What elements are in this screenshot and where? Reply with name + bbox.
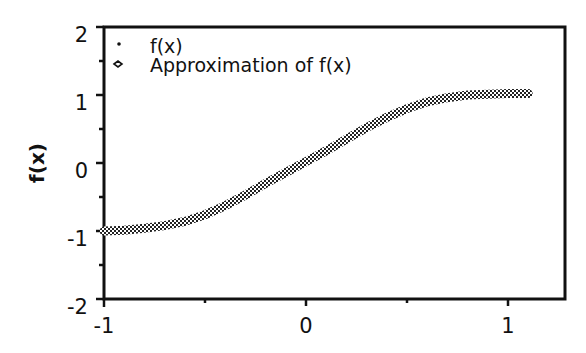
y-tick-label: 1	[75, 91, 88, 115]
chart: 2 1 0 -1 -2 -1 0 1 f(x) f(x) Approximati…	[0, 0, 586, 353]
legend-diamond-icon	[114, 61, 122, 67]
legend-dot-icon	[117, 42, 121, 46]
y-tick-label: 2	[75, 23, 88, 47]
legend-label-approximation: Approximation of f(x)	[150, 54, 352, 76]
legend: f(x) Approximation of f(x)	[114, 35, 352, 76]
approximation-curve	[104, 94, 528, 231]
x-tick-label: 1	[501, 314, 514, 338]
y-tick-label: -1	[67, 227, 88, 251]
x-tick-labels: -1 0 1	[94, 314, 515, 338]
x-tick-label: 0	[299, 314, 312, 338]
y-tick-labels: 2 1 0 -1 -2	[67, 23, 88, 319]
y-tick-label: 0	[75, 159, 88, 183]
y-axis-label: f(x)	[25, 143, 49, 183]
x-tick-label: -1	[94, 314, 115, 338]
y-tick-label: -2	[67, 295, 88, 319]
